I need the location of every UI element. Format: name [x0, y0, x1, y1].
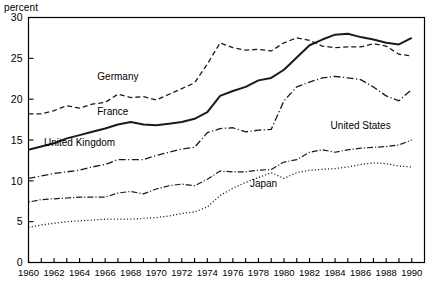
y-tick-label: 20 — [11, 93, 23, 105]
series-line-france — [29, 34, 412, 150]
x-tick-label: 1982 — [299, 267, 320, 278]
y-tick-label: 30 — [11, 11, 23, 23]
chart-root: percent 05101520253019601962196419661968… — [0, 0, 436, 290]
x-tick-label: 1974 — [197, 267, 218, 278]
x-tick-label: 1970 — [146, 267, 167, 278]
x-tick-label: 1990 — [401, 267, 422, 278]
x-tick-label: 1960 — [18, 267, 39, 278]
x-tick-label: 1964 — [69, 267, 90, 278]
x-tick-label: 1984 — [325, 267, 346, 278]
x-tick-label: 1978 — [248, 267, 269, 278]
line-chart: 0510152025301960196219641966196819701972… — [0, 0, 436, 290]
x-tick-label: 1976 — [222, 267, 243, 278]
series-label-united-kingdom: United Kingdom — [44, 137, 115, 148]
x-tick-label: 1968 — [120, 267, 141, 278]
x-tick-label: 1972 — [171, 267, 192, 278]
series-label-france: France — [97, 106, 129, 117]
y-tick-label: 5 — [17, 215, 23, 227]
y-tick-label: 10 — [11, 175, 23, 187]
series-label-united-states: United States — [331, 120, 391, 131]
series-line-germany — [29, 38, 412, 114]
x-tick-label: 1980 — [273, 267, 294, 278]
x-tick-label: 1986 — [350, 267, 371, 278]
series-line-united-states — [29, 140, 412, 202]
series-label-germany: Germany — [97, 71, 138, 82]
x-tick-label: 1988 — [376, 267, 397, 278]
y-tick-label: 15 — [11, 134, 23, 146]
x-tick-label: 1962 — [43, 267, 64, 278]
series-line-japan — [29, 163, 412, 228]
series-label-japan: Japan — [250, 178, 277, 189]
x-tick-label: 1966 — [95, 267, 116, 278]
y-tick-label: 25 — [11, 52, 23, 64]
